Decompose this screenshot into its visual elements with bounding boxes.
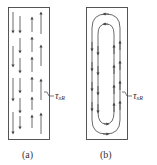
panel-b-loops <box>92 14 120 134</box>
panel-a-arrows <box>13 12 41 134</box>
panel-a-leader-line <box>44 92 54 96</box>
panel-b-annotation: τxR <box>133 90 143 101</box>
panel-b-frame <box>87 8 128 140</box>
panel-b-leader-line <box>122 92 132 96</box>
panel-a: τxR (a) <box>9 8 66 162</box>
panel-b-arrows <box>92 14 120 134</box>
panel-a-annotation: τxR <box>55 90 65 101</box>
panel-a-frame <box>9 8 50 140</box>
diagram-canvas: τxR (a) <box>0 0 157 165</box>
panel-b: τxR (b) <box>87 8 144 162</box>
panel-a-caption: (a) <box>22 149 33 161</box>
panel-b-caption: (b) <box>100 149 112 161</box>
